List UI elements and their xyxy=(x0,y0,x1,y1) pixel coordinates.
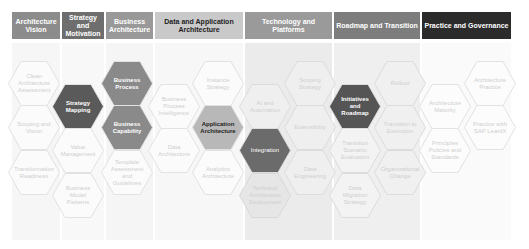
hex-label: Data Migration Strategy xyxy=(336,185,374,206)
hex-business-capability[interactable]: Business Capability xyxy=(101,105,153,150)
hex-label: Principles Policies and Standards xyxy=(426,140,464,161)
hex-label: Value Management xyxy=(59,144,97,158)
hex-instance-strategy[interactable]: Instance Strategy xyxy=(192,61,244,106)
header-label: Roadmap and Transition xyxy=(336,22,418,30)
hex-label: Transition Scenario Evaluation xyxy=(336,140,374,161)
hex-label: Architecture Maturity xyxy=(426,100,464,114)
hex-label: Scoping Strategy xyxy=(291,77,329,91)
hex-label: Application Architecture xyxy=(199,121,237,135)
hex-label: Rollout xyxy=(391,80,410,87)
hex-label: Architecture Practice xyxy=(471,77,509,91)
hex-label: Template Assessment and Guidelines xyxy=(108,159,146,187)
header-practice-governance: Practice and Governance xyxy=(422,12,511,39)
hex-strategy-mapping[interactable]: Strategy Mapping xyxy=(52,84,104,129)
hex-label: Extensibility xyxy=(294,124,326,131)
hex-label: Technical Architecture Deployment xyxy=(246,185,284,206)
header-label: Data and Application Architecture xyxy=(157,18,241,34)
header-business-architecture: Business Architecture xyxy=(106,12,153,39)
hex-label: AI and Automation xyxy=(246,100,284,114)
hex-template-assessment-guidelines[interactable]: Template Assessment and Guidelines xyxy=(101,150,153,195)
hex-label: Data Engineering xyxy=(291,166,329,180)
hex-business-model-patterns[interactable]: Business Model Patterns xyxy=(52,173,104,218)
hex-label: Initiatives and Roadmap xyxy=(336,96,374,117)
hex-value-management[interactable]: Value Management xyxy=(52,128,104,173)
hex-label: Business Process Intelligence xyxy=(155,96,193,117)
hex-label: Organizational Change xyxy=(381,166,420,180)
hex-practice-with-sap-leanix[interactable]: Practice with SAP LeanIX xyxy=(464,105,516,150)
hex-label: Data Architecture xyxy=(155,144,193,158)
hex-label: Business Process xyxy=(108,77,146,91)
hex-business-process[interactable]: Business Process xyxy=(101,61,153,106)
header-technology-platforms: Technology and Platforms xyxy=(245,12,332,39)
hex-label: Strategy Mapping xyxy=(59,100,97,114)
hex-application-architecture[interactable]: Application Architecture xyxy=(192,105,244,150)
header-architecture-vision: Architecture Vision xyxy=(12,12,60,39)
hex-label: Scoping and Vision xyxy=(15,121,53,135)
hex-architecture-practice[interactable]: Architecture Practice xyxy=(464,61,516,106)
hex-label: Clean Architecture Assessment xyxy=(15,73,53,94)
hex-label: Business Capability xyxy=(108,121,146,135)
header-data-application: Data and Application Architecture xyxy=(155,12,243,39)
header-label: Architecture Vision xyxy=(14,18,58,34)
header-label: Technology and Platforms xyxy=(247,18,330,34)
hex-label: Transition to Execution xyxy=(381,121,419,135)
hex-analytics-architecture[interactable]: Analytics Architecture xyxy=(192,150,244,195)
hex-label: Integration xyxy=(251,147,279,154)
hex-label: Practice with SAP LeanIX xyxy=(471,121,509,135)
hex-label: Analytics Architecture xyxy=(199,166,237,180)
header-label: Practice and Governance xyxy=(424,22,508,30)
hex-label: Business Model Patterns xyxy=(59,185,97,206)
header-strategy-motivation: Strategy and Motivation xyxy=(62,12,104,39)
hex-label: Instance Strategy xyxy=(199,77,237,91)
header-roadmap-transition: Roadmap and Transition xyxy=(334,12,420,39)
header-label: Strategy and Motivation xyxy=(64,14,102,38)
header-label: Business Architecture xyxy=(108,18,151,34)
hex-label: Transformation Readiness xyxy=(14,166,54,180)
